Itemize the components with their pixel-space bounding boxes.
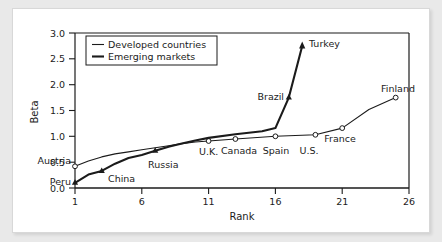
- x-tick-1: 6: [139, 196, 145, 207]
- label-uk: U.K.: [199, 146, 218, 157]
- label-canada: Canada: [221, 145, 257, 156]
- label-brazil: Brazil: [257, 91, 284, 102]
- y-axis-ticks: 0.0 0.5 1.0 1.5 2.0 2.5 3.0: [50, 28, 75, 194]
- x-tick-0: 1: [72, 196, 78, 207]
- label-china: China: [108, 173, 135, 184]
- label-peru: Peru: [50, 176, 71, 187]
- x-tick-4: 21: [336, 196, 348, 207]
- legend-label-developed-countries: Developed countries: [108, 39, 206, 50]
- label-france: France: [324, 133, 356, 144]
- x-tick-3: 16: [269, 196, 281, 207]
- label-turkey: Turkey: [308, 38, 340, 49]
- y-tick-2: 1.0: [50, 131, 65, 142]
- x-axis-ticks: 1 6 11 16 21 26: [72, 188, 415, 207]
- chart-svg: 0.0 0.5 1.0 1.5 2.0 2.5 3.0 1 6 11 16: [0, 0, 442, 242]
- x-tick-2: 11: [203, 196, 215, 207]
- series-developed-countries-markers: [73, 95, 399, 169]
- beta-rank-chart: 0.0 0.5 1.0 1.5 2.0 2.5 3.0 1 6 11 16: [0, 0, 442, 242]
- y-tick-4: 2.0: [50, 79, 65, 90]
- label-russia: Russia: [148, 159, 179, 170]
- label-us: U.S.: [299, 145, 318, 156]
- y-tick-3: 1.5: [50, 105, 65, 116]
- chart-legend: Developed countries Emerging markets: [86, 36, 217, 65]
- x-tick-5: 26: [403, 196, 415, 207]
- y-tick-6: 3.0: [50, 28, 65, 39]
- label-finland: Finland: [381, 83, 415, 94]
- legend-label-emerging-markets: Emerging markets: [108, 51, 195, 62]
- x-axis-title: Rank: [230, 211, 255, 222]
- y-axis-title: Beta: [29, 100, 40, 123]
- series-emerging-markets-line: [75, 46, 302, 183]
- label-austria: Austria: [37, 155, 71, 166]
- screenshot-root: 0.0 0.5 1.0 1.5 2.0 2.5 3.0 1 6 11 16: [0, 0, 442, 242]
- y-tick-5: 2.5: [50, 53, 65, 64]
- label-spain: Spain: [263, 145, 290, 156]
